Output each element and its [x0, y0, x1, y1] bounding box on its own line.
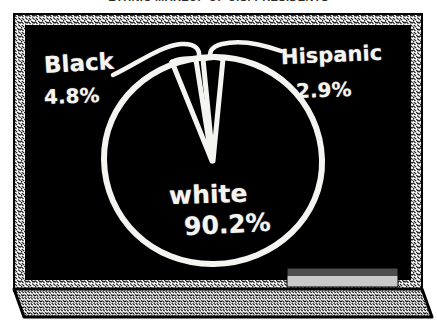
wedge-black-arc	[172, 59, 196, 62]
board-surface	[26, 26, 410, 279]
eraser[interactable]	[287, 268, 398, 287]
chalk-tray	[14, 289, 432, 317]
chalkboard: Black 4.8% Hispanic 2.9% white 90.2%	[0, 0, 437, 328]
chalkboard-illustration	[0, 0, 437, 328]
